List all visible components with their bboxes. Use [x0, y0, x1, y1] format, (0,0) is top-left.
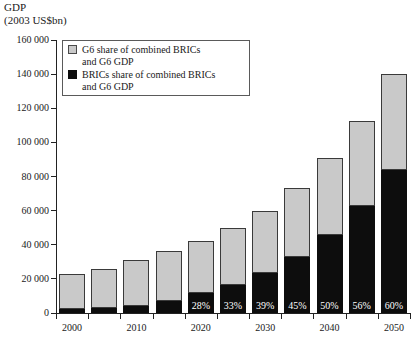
y-axis-tick-label: 60 000: [1, 206, 49, 216]
bar-segment-brics-share: [252, 273, 278, 313]
bar-2010: [123, 260, 149, 313]
y-axis-title-units: (2003 US$bn): [4, 14, 67, 27]
legend-label-brics-share: BRICs share of combined BRICs and G6 GDP: [82, 69, 246, 93]
bar-segment-g6-share: [317, 158, 343, 236]
x-axis-tick: [313, 314, 314, 319]
bar-segment-g6-share: [91, 269, 117, 308]
bar-segment-g6-share: [381, 74, 407, 170]
bar-segment-brics-share: [123, 306, 149, 314]
bar-segment-brics-share: [91, 308, 117, 313]
x-axis-tick: [88, 314, 89, 319]
bar-2020: 28%: [188, 241, 214, 313]
bar-segment-g6-share: [220, 228, 246, 285]
x-axis-tick-label: 2000: [47, 322, 97, 334]
bar-2040: 50%: [317, 158, 343, 313]
bar-segment-g6-share: [252, 211, 278, 273]
bar-segment-brics-share: [284, 257, 310, 313]
y-axis-tick-label: 40 000: [1, 240, 49, 250]
x-axis-tick-label: 2040: [305, 322, 355, 334]
x-axis-tick: [153, 314, 154, 319]
x-axis-tick: [378, 314, 379, 319]
bar-segment-brics-share: [188, 293, 214, 313]
bar-2025: 33%: [220, 228, 246, 313]
x-axis-tick: [281, 314, 282, 319]
y-axis-title: GDP (2003 US$bn): [4, 1, 67, 27]
bar-segment-g6-share: [188, 241, 214, 293]
y-axis-tick-label: 0: [1, 308, 49, 318]
x-axis-line: [56, 313, 411, 314]
x-axis-tick: [120, 314, 121, 319]
legend-label-brics-share-line1: BRICs share of combined BRICs: [82, 69, 215, 80]
bar-segment-g6-share: [123, 260, 149, 305]
legend-label-g6-share-line1: G6 share of combined BRICs: [82, 44, 200, 55]
bar-segment-brics-share: [220, 285, 246, 313]
bar-2000: [59, 274, 85, 313]
y-axis-tick-label: 20 000: [1, 274, 49, 284]
bar-segment-brics-share: [156, 301, 182, 313]
y-axis-tick-label: 120 000: [1, 103, 49, 113]
legend-entry-g6-share: G6 share of combined BRICs and G6 GDP: [68, 44, 246, 68]
bar-2050: 60%: [381, 74, 407, 313]
bar-segment-g6-share: [156, 251, 182, 301]
legend-label-g6-share: G6 share of combined BRICs and G6 GDP: [82, 44, 246, 68]
x-axis-tick: [346, 314, 347, 319]
x-axis-tick-label: 2050: [369, 322, 413, 334]
x-axis-tick-label: 2020: [176, 322, 226, 334]
bar-2045: 56%: [349, 121, 375, 313]
y-axis-tick-label: 160 000: [1, 35, 49, 45]
x-axis-tick-label: 2010: [111, 322, 161, 334]
legend-swatch-black-icon: [68, 70, 77, 79]
bar-2035: 45%: [284, 188, 310, 313]
x-axis-tick-label: 2030: [240, 322, 290, 334]
y-axis-tick-label: 80 000: [1, 172, 49, 182]
bar-segment-g6-share: [284, 188, 310, 257]
y-axis-title-line1: GDP: [4, 1, 26, 13]
x-axis-tick: [249, 314, 250, 319]
x-axis-tick: [185, 314, 186, 319]
bar-segment-brics-share: [349, 206, 375, 313]
chart-legend: G6 share of combined BRICs and G6 GDP BR…: [62, 40, 250, 96]
legend-entry-brics-share: BRICs share of combined BRICs and G6 GDP: [68, 69, 246, 93]
bar-segment-brics-share: [317, 235, 343, 313]
legend-label-g6-share-line2: and G6 GDP: [82, 56, 246, 68]
bar-segment-brics-share: [59, 309, 85, 313]
x-axis-tick: [56, 314, 57, 319]
x-axis-tick: [217, 314, 218, 319]
bar-segment-g6-share: [59, 274, 85, 309]
bar-segment-g6-share: [349, 121, 375, 205]
legend-label-brics-share-line2: and G6 GDP: [82, 81, 246, 93]
bar-2030: 39%: [252, 211, 278, 313]
bar-chart: GDP (2003 US$bn) 020 00040 00060 00080 0…: [0, 0, 413, 348]
bar-2015: [156, 251, 182, 313]
bar-segment-brics-share: [381, 170, 407, 313]
bar-2005: [91, 269, 117, 313]
y-axis-tick-label: 100 000: [1, 137, 49, 147]
x-axis-tick: [410, 314, 411, 319]
y-axis-tick-label: 140 000: [1, 69, 49, 79]
legend-swatch-grey-icon: [68, 45, 77, 54]
